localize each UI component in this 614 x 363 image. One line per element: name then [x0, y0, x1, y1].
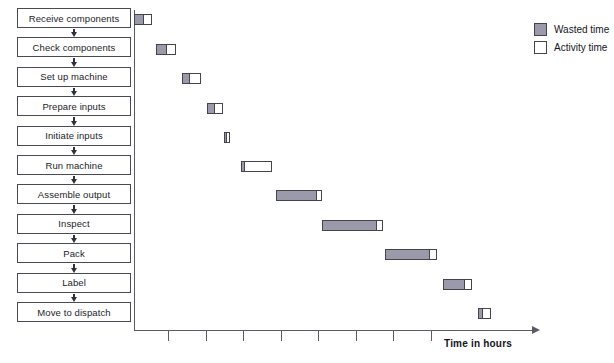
chart-plot-area: Time in hours Wasted time Activity time [134, 0, 557, 363]
flowchart-arrow-icon-1 [73, 29, 75, 33]
gantt-bar-3 [182, 73, 201, 84]
y-axis-line [134, 10, 135, 330]
x-axis-tick-7 [393, 331, 394, 341]
x-axis-tick-1 [168, 331, 169, 341]
bar-segment-activity [245, 161, 272, 172]
flowchart-step-2: Check components [17, 37, 131, 57]
bar-segment-activity [215, 103, 223, 114]
bar-segment-activity [483, 308, 491, 319]
gantt-bar-9 [385, 249, 437, 260]
flowchart-arrow-icon-8 [73, 235, 75, 239]
x-axis-arrow-icon [532, 326, 540, 334]
flowchart-arrow-icon-10 [73, 294, 75, 298]
bar-segment-activity [465, 279, 472, 290]
flowchart-step-1: Receive components [17, 8, 131, 28]
flowchart-step-label: Prepare inputs [42, 101, 105, 112]
bar-segment-wasted [443, 279, 465, 290]
flowchart-step-label: Move to dispatch [37, 307, 110, 318]
bar-segment-wasted [322, 220, 377, 231]
gantt-bar-10 [443, 279, 472, 290]
x-axis-tick-8 [431, 331, 432, 341]
x-axis-tick-2 [206, 331, 207, 341]
x-axis-tick-5 [318, 331, 319, 341]
flowchart-step-label: Label [62, 277, 86, 288]
flowchart-step-11: Move to dispatch [17, 302, 131, 322]
flowchart-step-label: Assemble output [38, 189, 110, 200]
bar-segment-activity [377, 220, 383, 231]
flowchart-step-label: Pack [63, 248, 85, 259]
flowchart-arrow-icon-2 [73, 58, 75, 62]
flowchart-arrow-icon-6 [73, 176, 75, 180]
gantt-bar-8 [322, 220, 383, 231]
bar-segment-activity [317, 190, 322, 201]
flowchart-step-4: Prepare inputs [17, 96, 131, 116]
flowchart-arrow-icon-4 [73, 117, 75, 121]
bar-segment-activity [430, 249, 437, 260]
flowchart-step-label: Inspect [58, 218, 89, 229]
flowchart-step-label: Initiate inputs [45, 130, 102, 141]
legend-swatch-activity-time [534, 41, 547, 54]
flowchart-step-5: Initiate inputs [17, 126, 131, 146]
flowchart-step-8: Inspect [17, 214, 131, 234]
bar-segment-wasted [207, 103, 215, 114]
bar-segment-activity [227, 132, 230, 143]
flowchart-step-label: Run machine [45, 160, 102, 171]
process-flowchart: Receive componentsCheck componentsSet up… [0, 0, 134, 363]
bar-segment-wasted [156, 44, 167, 55]
bar-segment-activity [144, 14, 152, 25]
flowchart-arrow-icon-5 [73, 147, 75, 151]
x-axis-tick-4 [281, 331, 282, 341]
gantt-bar-2 [156, 44, 176, 55]
gantt-bar-4 [207, 103, 223, 114]
legend-item-wasted-time: Wasted time [534, 20, 614, 38]
gantt-bar-1 [134, 14, 152, 25]
flowchart-arrow-icon-7 [73, 205, 75, 209]
x-axis-tick-3 [243, 331, 244, 341]
legend-swatch-wasted-time [534, 23, 547, 36]
x-axis-label: Time in hours [444, 338, 512, 349]
flowchart-step-3: Set up machine [17, 67, 131, 87]
flowchart-step-7: Assemble output [17, 184, 131, 204]
flowchart-step-label: Check components [33, 42, 116, 53]
flowchart-arrow-icon-9 [73, 264, 75, 268]
legend-item-activity-time: Activity time [534, 38, 614, 56]
gantt-bar-11 [478, 308, 491, 319]
flowchart-step-label: Receive components [29, 13, 120, 24]
x-axis-tick-6 [356, 331, 357, 341]
flowchart-step-label: Set up machine [40, 71, 107, 82]
gantt-bar-5 [224, 132, 230, 143]
legend-label-activity-time: Activity time [554, 42, 607, 53]
flowchart-step-9: Pack [17, 243, 131, 263]
gantt-bar-7 [276, 190, 322, 201]
bar-segment-activity [190, 73, 201, 84]
bar-segment-wasted [134, 14, 144, 25]
x-axis-line [134, 330, 534, 331]
bar-segment-wasted [385, 249, 430, 260]
flowchart-step-6: Run machine [17, 155, 131, 175]
chart-legend: Wasted time Activity time [534, 20, 614, 56]
bar-segment-wasted [276, 190, 317, 201]
legend-label-wasted-time: Wasted time [554, 24, 609, 35]
flowchart-step-10: Label [17, 273, 131, 293]
flowchart-arrow-icon-3 [73, 88, 75, 92]
bar-segment-activity [167, 44, 176, 55]
bar-segment-wasted [182, 73, 190, 84]
gantt-bar-6 [241, 161, 272, 172]
